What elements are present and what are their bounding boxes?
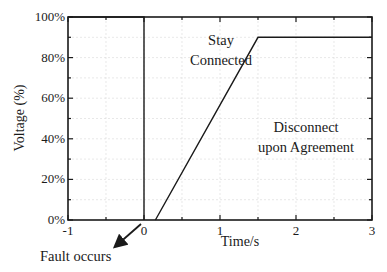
y-tick-label: 80% — [41, 50, 65, 65]
annotation-fault-occurs: Fault occurs — [40, 224, 141, 264]
y-tick-label: 20% — [41, 171, 65, 186]
y-axis-label: Voltage (%) — [12, 84, 28, 151]
y-tick-label: 60% — [41, 90, 65, 105]
svg-text:Stay: Stay — [208, 32, 235, 48]
y-tick-label: 40% — [41, 131, 65, 146]
ride-through-boundary-line — [155, 37, 372, 220]
x-tick-label: 3 — [369, 223, 376, 238]
x-tick-label: 2 — [293, 223, 300, 238]
fault-arrow-icon — [117, 224, 141, 245]
x-tick-label: -1 — [63, 223, 74, 238]
y-tick-label: 100% — [35, 9, 66, 24]
svg-text:Fault occurs: Fault occurs — [40, 248, 112, 264]
annotation-stay-connected: Stay Connected — [190, 32, 253, 68]
svg-text:Disconnect: Disconnect — [273, 119, 338, 135]
voltage-ride-through-chart: 0%20%40%60%80%100% -10123 Voltage (%) Ti… — [0, 0, 387, 272]
annotation-disconnect-upon-agreement: Disconnect upon Agreement — [258, 119, 354, 155]
x-tick-labels: -10123 — [63, 223, 376, 238]
y-tick-labels: 0%20%40%60%80%100% — [35, 9, 66, 227]
svg-text:Connected: Connected — [190, 52, 253, 68]
x-tick-label: 0 — [141, 223, 148, 238]
x-axis-label: Time/s — [221, 234, 259, 249]
svg-text:upon Agreement: upon Agreement — [258, 139, 354, 155]
